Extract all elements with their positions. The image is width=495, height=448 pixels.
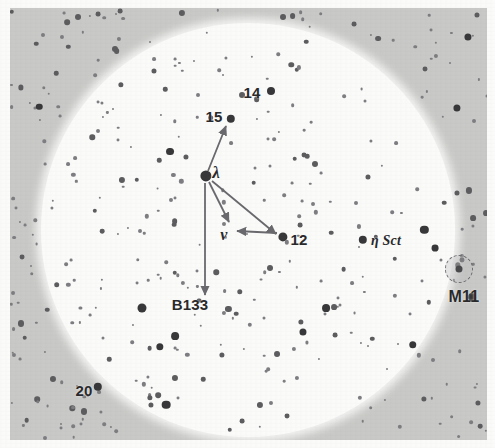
star-dot: [152, 69, 157, 74]
star-dot: [416, 188, 420, 192]
star-dot: [458, 349, 462, 353]
star-dot: [303, 129, 306, 132]
label-nu: ν: [220, 226, 227, 244]
star-dot: [442, 115, 444, 117]
star-dot: [439, 422, 442, 425]
star-dot: [39, 119, 41, 121]
star-dot: [11, 401, 13, 403]
star-dot: [196, 93, 200, 97]
star-dot: [44, 351, 46, 353]
star-dot: [130, 340, 134, 344]
star-dot: [398, 424, 402, 428]
star-dot: [198, 243, 201, 246]
star-dot: [45, 308, 50, 313]
star-dot: [367, 345, 369, 347]
star-dot: [421, 96, 424, 99]
star-dot: [157, 273, 160, 276]
star-dot: [259, 278, 262, 281]
star-dot: [273, 138, 277, 142]
star-dot: [164, 261, 168, 265]
star-dot: [428, 14, 431, 17]
star-dot: [152, 57, 156, 61]
star-dot: [81, 418, 83, 420]
star-dot: [267, 110, 270, 113]
star-dot: [485, 94, 487, 97]
star-dot: [369, 406, 373, 410]
star-dot: [11, 291, 15, 295]
star-dot: [478, 424, 483, 429]
star-dot: [135, 282, 138, 285]
star-dot: [10, 105, 13, 109]
star-dot: [217, 68, 221, 72]
star-dot: [60, 381, 64, 385]
star-dot: [392, 39, 395, 42]
star-dot: [66, 162, 70, 166]
star-dot: [431, 358, 435, 362]
label-14: 14: [243, 84, 260, 101]
star-dot: [322, 304, 330, 312]
star-dot: [370, 34, 372, 36]
star-dot: [81, 31, 83, 33]
star-dot: [253, 166, 256, 169]
star-dot: [36, 400, 39, 403]
star-dot: [174, 196, 177, 199]
star-dot: [71, 406, 75, 410]
star-dot: [308, 25, 311, 28]
star-dot: [57, 105, 61, 109]
star-dot: [360, 88, 363, 91]
star-dot: [102, 16, 106, 20]
star-dot: [485, 430, 487, 432]
star-dot: [18, 85, 23, 90]
star-dot: [390, 210, 394, 214]
star-dot: [471, 224, 474, 227]
star-dot: [23, 335, 28, 340]
star-dot: [290, 13, 296, 19]
star-dot: [110, 425, 112, 427]
star-dot: [147, 346, 152, 351]
star-dot: [283, 380, 286, 383]
star-dot: [229, 142, 233, 146]
star-dot: [50, 376, 56, 382]
star-dot: [64, 262, 68, 266]
star-dot: [96, 129, 100, 133]
star-dot: [60, 35, 64, 39]
star-dot: [88, 314, 91, 317]
star-dot: [297, 214, 301, 218]
star-dot: [94, 74, 98, 78]
star-dot: [450, 415, 454, 419]
star-dot: [176, 397, 179, 400]
star-dot: [431, 244, 438, 251]
label-lambda: λ: [212, 163, 220, 183]
star-dot: [64, 20, 70, 26]
star-dot: [476, 382, 478, 384]
star-dot: [290, 182, 293, 185]
star-dot: [35, 243, 38, 246]
star-dot: [47, 92, 50, 95]
star-dot: [60, 427, 63, 430]
star-dot: [263, 199, 266, 202]
star-dot: [263, 270, 267, 274]
star-dot: [430, 29, 433, 32]
star-dot: [461, 228, 464, 231]
star-dot: [267, 265, 273, 271]
star-dot: [18, 320, 24, 326]
star-dot: [34, 42, 39, 47]
star-dot: [63, 12, 66, 15]
star-dot: [283, 193, 287, 197]
star-dot: [431, 397, 433, 399]
star-dot: [97, 100, 100, 103]
star-dot: [280, 14, 286, 20]
star-dot: [100, 410, 103, 413]
star-dot: [354, 201, 358, 205]
label-b133: B133: [172, 296, 209, 313]
star-dot: [320, 280, 323, 283]
star-dot: [341, 267, 346, 272]
star-dot: [478, 78, 480, 80]
star-dot: [350, 282, 354, 286]
star-dot: [23, 224, 26, 227]
star-dot: [358, 246, 360, 248]
star-dot: [135, 379, 138, 382]
star-dot: [291, 103, 295, 107]
star-dot: [156, 187, 159, 190]
star-dot: [466, 187, 472, 193]
